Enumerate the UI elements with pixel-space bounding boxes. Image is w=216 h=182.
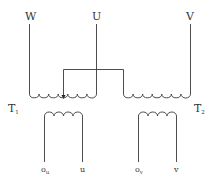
terminal-label-w: W: [25, 10, 37, 23]
terminal-label-u: U: [92, 10, 101, 23]
t2-secondary-coil: [139, 112, 177, 162]
t2-secondary-terminal-ov: ov: [135, 165, 144, 175]
t1-secondary-coil: [45, 112, 83, 162]
t2-secondary-terminal-v: v: [173, 165, 179, 174]
bridge-wire: [64, 70, 124, 98]
t1-label: T1: [8, 102, 19, 115]
t1-secondary-terminal-ou: ou: [41, 165, 50, 175]
t2-primary-coil: [124, 94, 191, 98]
center-tap-arrow-icon: [62, 95, 66, 99]
t2-label: T2: [194, 102, 205, 115]
terminal-label-v: V: [185, 10, 195, 23]
transformer-diagram: W U V T1 T2 ou u ov v: [0, 0, 216, 182]
t1-secondary-terminal-u: u: [80, 165, 85, 174]
